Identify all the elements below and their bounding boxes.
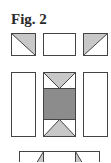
quilt-diagram [0,0,111,162]
bottom-row [20,152,100,163]
plain-tall-rectangle-right [84,73,108,137]
middle-row [12,73,108,137]
top-row [12,34,108,56]
half-square-triangle-right [84,34,108,56]
plain-rectangle [44,34,76,56]
center-block [44,73,76,137]
half-square-triangle-left [12,34,36,56]
plain-tall-rectangle-left [12,73,36,137]
